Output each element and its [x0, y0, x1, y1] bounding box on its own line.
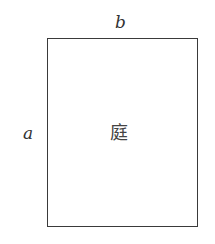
garden-label: 庭 [110, 124, 128, 142]
width-label-b: b [115, 14, 126, 31]
height-label-a: a [23, 125, 33, 142]
